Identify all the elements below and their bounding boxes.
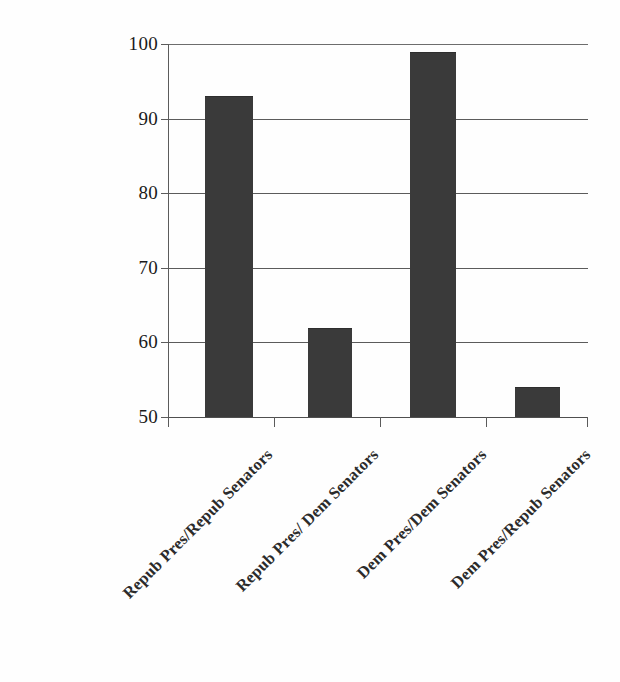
gridline-100 bbox=[168, 44, 588, 45]
ytick-label-70: 70 bbox=[138, 257, 158, 279]
bar-repub-pres-dem-senators[interactable] bbox=[308, 328, 352, 418]
ytick-label-90: 90 bbox=[138, 108, 158, 130]
ytick-mark-60 bbox=[161, 342, 168, 343]
ytick-mark-90 bbox=[161, 119, 168, 120]
bar-repub-pres-repub-senators[interactable] bbox=[205, 96, 253, 417]
ytick-mark-50 bbox=[161, 417, 168, 418]
xlabel-1: Repub Pres/ Dem Senators bbox=[157, 445, 383, 671]
ytick-label-60: 60 bbox=[138, 331, 158, 353]
xlabel-0: Repub Pres/Repub Senators bbox=[51, 445, 277, 671]
ytick-label-50: 50 bbox=[138, 406, 158, 428]
bar-dem-pres-repub-senators[interactable] bbox=[515, 387, 560, 417]
xlabel-3: Dem Pres/Repub Senators bbox=[369, 445, 595, 671]
xtick-1 bbox=[274, 417, 275, 427]
ytick-label-80: 80 bbox=[138, 182, 158, 204]
bar-dem-pres-dem-senators[interactable] bbox=[410, 52, 456, 418]
bar-chart: 100 90 80 70 60 50 bbox=[0, 0, 620, 682]
ytick-mark-100 bbox=[161, 44, 168, 45]
ytick-mark-80 bbox=[161, 193, 168, 194]
xtick-3 bbox=[486, 417, 487, 427]
y-axis-line bbox=[168, 44, 169, 417]
xtick-4 bbox=[587, 417, 588, 427]
xtick-0 bbox=[168, 417, 169, 427]
ytick-mark-70 bbox=[161, 268, 168, 269]
xlabel-2: Dem Pres/Dem Senators bbox=[265, 445, 491, 671]
xtick-2 bbox=[380, 417, 381, 427]
ytick-label-100: 100 bbox=[129, 33, 158, 55]
plot-area: 100 90 80 70 60 50 bbox=[168, 44, 588, 417]
x-axis-line bbox=[168, 417, 588, 418]
